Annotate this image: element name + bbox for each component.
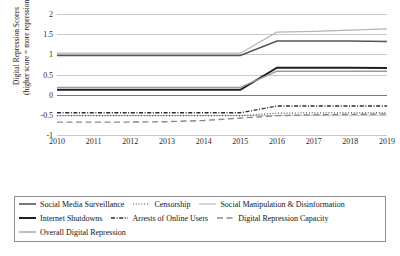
x-axis-tick-label: 2017 [306, 137, 322, 146]
legend-label: Censorship [154, 200, 190, 209]
y-axis-title-line2: (higher score = more repression) [22, 0, 32, 116]
legend-swatch-icon [19, 214, 36, 222]
y-axis-tick-label: 0.5 [43, 70, 53, 79]
legend-swatch-icon [199, 200, 216, 208]
x-axis-tick-label: 2012 [122, 137, 138, 146]
legend-label: Internet Shutdowns [40, 214, 102, 223]
legend-item[interactable]: Arrests of Online Users [111, 214, 208, 223]
legend-swatch-icon [19, 200, 36, 208]
legend-row: Internet ShutdownsArrests of Online User… [19, 211, 385, 225]
chart-legend: Social Media SurveillanceCensorshipSocia… [14, 196, 386, 242]
x-axis-tick-label: 2014 [196, 137, 212, 146]
y-axis-tick-label: 1.5 [43, 30, 53, 39]
x-axis-tick-label: 2016 [269, 137, 285, 146]
series-line [57, 71, 387, 87]
chart-root: Digital Repression Scores (higher score … [0, 0, 400, 256]
y-axis-tick-label: 1 [49, 50, 53, 59]
legend-label: Arrests of Online Users [132, 214, 208, 223]
gridline [57, 135, 387, 136]
legend-label: Social Media Surveillance [40, 200, 124, 209]
legend-label: Digital Repression Capacity [238, 214, 328, 223]
series-lines [57, 14, 387, 135]
series-line [57, 114, 387, 122]
legend-item[interactable]: Overall Digital Repression [19, 228, 126, 237]
legend-label: Overall Digital Repression [40, 228, 126, 237]
plot-area: -1-0.500.511.52 [57, 14, 387, 135]
legend-label: Social Manipulation & Disinformation [220, 200, 344, 209]
x-axis-tick-label: 2015 [232, 137, 248, 146]
legend-item[interactable]: Internet Shutdowns [19, 214, 102, 223]
legend-swatch-icon [133, 200, 150, 208]
legend-item[interactable]: Digital Repression Capacity [217, 214, 328, 223]
legend-item[interactable]: Social Manipulation & Disinformation [199, 200, 344, 209]
y-axis-title-line1: Digital Repression Scores [12, 0, 22, 116]
x-axis-tick-label: 2018 [342, 137, 358, 146]
x-axis-tick-label: 2010 [49, 137, 65, 146]
series-line [57, 106, 387, 113]
x-axis-tick-label: 2019 [379, 137, 395, 146]
legend-row: Social Media SurveillanceCensorshipSocia… [19, 197, 385, 211]
x-axis-tick-label: 2011 [86, 137, 102, 146]
legend-row: Overall Digital Repression [19, 225, 385, 239]
x-axis-labels: 2010201120122013201420152016201720182019 [57, 137, 387, 151]
y-axis-title: Digital Repression Scores (higher score … [0, 28, 44, 138]
y-axis-tick-label: 0 [49, 90, 53, 99]
y-axis-tick-label: -0.5 [41, 110, 53, 119]
legend-item[interactable]: Censorship [133, 200, 190, 209]
legend-item[interactable]: Social Media Surveillance [19, 200, 124, 209]
y-axis-tick-label: 2 [49, 10, 53, 19]
legend-swatch-icon [111, 214, 128, 222]
legend-swatch-icon [19, 228, 36, 236]
legend-swatch-icon [217, 214, 234, 222]
x-axis-tick-label: 2013 [159, 137, 175, 146]
